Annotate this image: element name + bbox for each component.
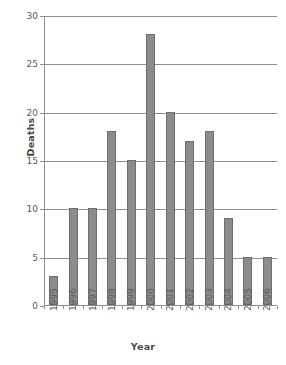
x-tick-label: 2001 [165, 288, 175, 322]
y-tick-label: 30 [27, 12, 38, 21]
x-tick-mark [63, 306, 64, 309]
gridline [44, 258, 277, 259]
y-tick-label: 15 [27, 157, 38, 166]
bar [107, 131, 116, 305]
x-tick-mark [122, 306, 123, 309]
bar [205, 131, 214, 305]
x-tick-label: 2006 [262, 288, 272, 322]
x-tick-mark [102, 306, 103, 309]
x-tick-label: 2004 [223, 288, 233, 322]
x-tick-mark [161, 306, 162, 309]
bar [127, 160, 136, 305]
gridline [44, 113, 277, 114]
x-tick-mark [44, 306, 45, 309]
y-tick-label: 5 [32, 253, 38, 262]
x-tick-mark [141, 306, 142, 309]
y-tick-label: 25 [27, 60, 38, 69]
x-tick-label: 1999 [126, 288, 136, 322]
y-tick-mark [40, 16, 44, 17]
x-tick-label: 2003 [204, 288, 214, 322]
x-axis-title: Year [0, 341, 286, 352]
gridline [44, 209, 277, 210]
plot-area: 051015202530 199519961997199819992000200… [44, 16, 277, 306]
x-tick-mark [238, 306, 239, 309]
bar [146, 34, 155, 305]
x-tick-label: 1997 [88, 288, 98, 322]
y-tick-mark [40, 209, 44, 210]
x-tick-mark [258, 306, 259, 309]
x-tick-mark [277, 306, 278, 309]
bar [185, 141, 194, 305]
bar [166, 112, 175, 305]
x-tick-mark [83, 306, 84, 309]
x-tick-label: 2000 [146, 288, 156, 322]
gridline [44, 64, 277, 65]
gridline [44, 16, 277, 17]
y-tick-mark [40, 161, 44, 162]
figure-caption [0, 358, 286, 365]
y-tick-label: 20 [27, 108, 38, 117]
y-tick-label: 0 [32, 302, 38, 311]
x-tick-label: 2002 [185, 288, 195, 322]
x-tick-label: 1998 [107, 288, 117, 322]
x-tick-mark [199, 306, 200, 309]
x-tick-mark [219, 306, 220, 309]
y-tick-label: 10 [27, 205, 38, 214]
x-tick-mark [180, 306, 181, 309]
y-tick-mark [40, 64, 44, 65]
y-tick-mark [40, 113, 44, 114]
y-tick-mark [40, 258, 44, 259]
x-tick-label: 2005 [243, 288, 253, 322]
x-tick-label: 1995 [49, 288, 59, 322]
bar-chart-figure: Deaths 051015202530 19951996199719981999… [0, 0, 286, 365]
gridline [44, 161, 277, 162]
x-tick-label: 1996 [68, 288, 78, 322]
